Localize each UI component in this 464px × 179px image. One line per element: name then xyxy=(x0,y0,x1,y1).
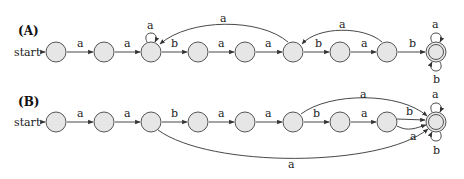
edge-label: a xyxy=(432,18,439,31)
self-loop-p8-a xyxy=(431,103,441,112)
state-p6 xyxy=(330,112,350,132)
panel-a: (A) start a a a b a a a b a a b a b xyxy=(14,12,446,86)
state-q2 xyxy=(141,42,161,62)
edge-label: b xyxy=(433,73,440,86)
edge-label: b xyxy=(433,144,440,157)
edge-label: a xyxy=(360,88,367,101)
self-loop-q8-b xyxy=(431,62,441,71)
edge-label: b xyxy=(171,107,178,120)
state-p5 xyxy=(283,112,303,132)
edge-p2-p8 xyxy=(158,129,428,158)
state-p1 xyxy=(94,112,114,132)
edge-label: a xyxy=(124,37,131,50)
edge-label: a xyxy=(124,107,131,120)
edge-p7-p8-b xyxy=(397,119,425,120)
edge-label: a xyxy=(218,37,225,50)
edge-label: a xyxy=(77,37,84,50)
state-p7 xyxy=(377,112,397,132)
edge-label: a xyxy=(361,37,368,50)
state-q0 xyxy=(46,42,66,62)
edge-label: b xyxy=(409,37,416,50)
edge-label: a xyxy=(339,18,346,31)
self-loop-q8-a xyxy=(431,33,441,42)
edge-label: a xyxy=(361,107,368,120)
edge-label: a xyxy=(77,107,84,120)
state-q7 xyxy=(377,42,397,62)
state-p3 xyxy=(188,112,208,132)
self-loop-p8-b xyxy=(431,132,441,141)
edge-label: b xyxy=(406,105,413,118)
edge-label: a xyxy=(265,107,272,120)
state-p0 xyxy=(46,112,66,132)
edge-label: b xyxy=(315,37,322,50)
automata-diagram: (A) start a a a b a a a b a a b a b xyxy=(0,0,464,179)
edge-label: a xyxy=(218,107,225,120)
edge-label: a xyxy=(147,19,154,32)
edge-label: a xyxy=(432,88,439,101)
panel-b: (B) start a a b a a b a a b a a a b xyxy=(14,88,446,171)
edge-label: b xyxy=(171,37,178,50)
edge-label: a xyxy=(288,158,295,171)
state-q6 xyxy=(330,42,350,62)
panel-a-label: (A) xyxy=(18,24,39,38)
panel-b-start-label: start xyxy=(14,116,41,129)
state-q5 xyxy=(283,42,303,62)
edge-p7-p8-a xyxy=(397,125,426,129)
self-loop-q2 xyxy=(146,33,156,42)
state-q1 xyxy=(94,42,114,62)
edge-label: a xyxy=(265,37,272,50)
edge-label: a xyxy=(220,12,227,25)
panel-a-start-label: start xyxy=(14,46,41,59)
edge-label: b xyxy=(313,107,320,120)
state-p4 xyxy=(235,112,255,132)
panel-b-label: (B) xyxy=(18,95,40,109)
state-q3 xyxy=(188,42,208,62)
state-p2 xyxy=(141,112,161,132)
state-q4 xyxy=(235,42,255,62)
